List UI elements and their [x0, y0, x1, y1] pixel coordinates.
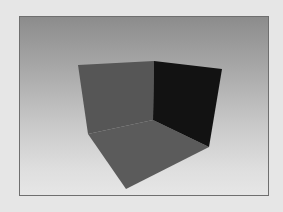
figure-page: Rendered 3D open box corner: two walls a… [0, 0, 283, 212]
box-scene [0, 0, 283, 212]
